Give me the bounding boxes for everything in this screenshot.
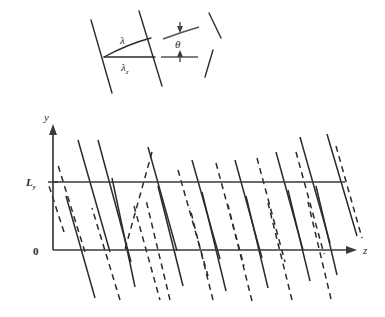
ray-dashed: [336, 146, 362, 238]
ray-dashed: [49, 186, 64, 232]
wavefront-right-line: [139, 11, 162, 86]
bracket-upper-tick: [209, 13, 221, 38]
ray-dashed: [178, 170, 208, 276]
theta-label: θ: [175, 38, 181, 50]
ray-solid: [78, 140, 110, 252]
ray-solid: [112, 178, 135, 287]
figure-root: λ λz θ: [0, 0, 385, 317]
ly-axis-label: Ly: [25, 176, 37, 191]
ray-solid: [202, 192, 226, 291]
bracket-lower-tick: [205, 50, 213, 77]
ray-solid: [316, 186, 337, 275]
theta-lower-arrowhead: [177, 50, 183, 57]
ray-solid: [327, 134, 357, 236]
wavefront-geometry-inset: λ λz θ: [91, 11, 221, 93]
ray-solid: [288, 190, 310, 281]
ray-solid: [148, 147, 177, 251]
lambda-label: λ: [119, 34, 125, 46]
ray-dashed: [268, 203, 292, 300]
ray-dashed: [228, 205, 252, 301]
y-axis-label: y: [43, 111, 49, 123]
scientific-diagram: λ λz θ: [0, 0, 385, 317]
ray-bundle: [49, 134, 362, 301]
ray-dashed: [124, 152, 152, 253]
ray-solid: [246, 196, 268, 288]
ray-dashed: [134, 206, 160, 300]
ray-solid: [158, 186, 183, 286]
origin-label: 0: [33, 245, 39, 257]
dashed-ray-group: [49, 146, 362, 301]
ray-solid: [66, 196, 95, 298]
z-axis-arrowhead: [346, 246, 357, 254]
ray-dashed: [92, 208, 120, 300]
lambda-z-label: λz: [120, 61, 129, 76]
y-axis-arrowhead: [49, 124, 57, 135]
ray-dashed: [57, 162, 85, 252]
lambda-slant-measure: [104, 38, 151, 57]
ray-path-plot: y z Ly 0: [25, 111, 368, 301]
ray-dashed: [257, 158, 285, 262]
z-axis-label: z: [362, 244, 368, 256]
